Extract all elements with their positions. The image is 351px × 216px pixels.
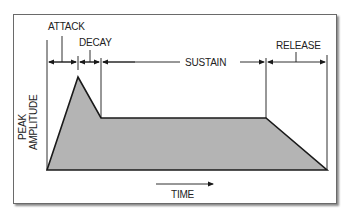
adsr-diagram: ATTACK DECAY SUSTAIN RELEASE PEAK AMPLIT… <box>0 0 351 216</box>
y-axis-label: PEAK AMPLITUDE <box>17 94 39 150</box>
y-axis-label-line2: AMPLITUDE <box>28 94 39 150</box>
decay-label: DECAY <box>79 37 112 48</box>
sustain-label: SUSTAIN <box>185 57 226 68</box>
y-axis-label-line1: PEAK <box>17 114 28 140</box>
attack-label: ATTACK <box>48 21 85 32</box>
x-axis-label: TIME <box>171 189 195 200</box>
envelope-shape <box>47 77 327 170</box>
release-label: RELEASE <box>276 40 321 51</box>
